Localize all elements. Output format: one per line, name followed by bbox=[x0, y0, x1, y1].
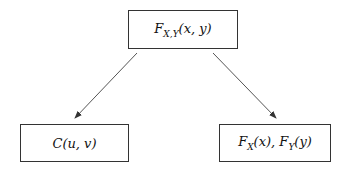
edge-joint-to-copula bbox=[75, 53, 137, 118]
node-copula: C(u, v) bbox=[20, 124, 129, 162]
edge-joint-to-marginals bbox=[213, 53, 276, 118]
node-copula-label: C(u, v) bbox=[52, 136, 96, 151]
node-marginals: FX(x), FY(y) bbox=[219, 124, 331, 162]
node-marginals-label: FX(x), FY(y) bbox=[238, 134, 312, 152]
node-joint-label: FX,Y(x, y) bbox=[154, 21, 211, 39]
node-joint-distribution: FX,Y(x, y) bbox=[128, 10, 238, 49]
